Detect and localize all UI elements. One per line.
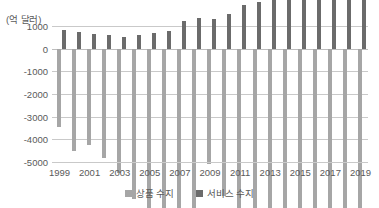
bar-goods-2017[interactable] (328, 49, 332, 208)
x-axis-tick-label: 1999 (49, 167, 70, 178)
bar-goods-2003[interactable] (117, 49, 121, 173)
x-axis-tick-label: 2009 (199, 167, 220, 178)
bar-group (263, 26, 278, 162)
bar-group (157, 26, 172, 162)
bar-group (278, 26, 293, 162)
bar-group (323, 26, 338, 162)
bar-group (248, 26, 263, 162)
x-axis-tick-label: 2003 (109, 167, 130, 178)
bar-group (338, 26, 353, 162)
bar-group (293, 26, 308, 162)
y-axis-tick-label: 0 (4, 43, 48, 54)
legend-label-services: 서비스 수지 (207, 186, 253, 200)
x-axis-tick-label: 2011 (230, 167, 250, 178)
bar-services-2019[interactable] (362, 0, 366, 49)
bar-goods-2016[interactable] (313, 49, 317, 208)
bar-services-2006[interactable] (167, 31, 171, 49)
bar-group (233, 26, 248, 162)
bar-group (202, 26, 217, 162)
bar-group (308, 26, 323, 162)
y-axis-tick-label: 1000 (4, 21, 48, 32)
bars-layer (52, 26, 368, 162)
trade-balance-bar-chart: (억 달러) 10000-1000-2000-3000-4000-5000 19… (0, 0, 379, 208)
bar-goods-2014[interactable] (283, 49, 287, 208)
bar-services-2004[interactable] (137, 35, 141, 49)
bar-goods-2018[interactable] (343, 49, 347, 208)
bar-services-2011[interactable] (242, 5, 246, 48)
legend-label-goods: 상품 수지 (136, 186, 174, 200)
bar-goods-2010[interactable] (222, 49, 226, 196)
bar-goods-2008[interactable] (192, 49, 196, 208)
bar-services-2017[interactable] (332, 0, 336, 49)
x-axis-tick-label: 2001 (79, 167, 100, 178)
x-axis-line (52, 162, 368, 163)
bar-services-2000[interactable] (77, 32, 81, 49)
bar-services-2014[interactable] (287, 0, 291, 49)
bar-goods-1999[interactable] (57, 49, 61, 127)
bar-services-2012[interactable] (257, 2, 261, 48)
bar-goods-2005[interactable] (147, 49, 151, 208)
bar-services-2005[interactable] (152, 33, 156, 49)
x-axis-tick-label: 2013 (260, 167, 281, 178)
bar-group (82, 26, 97, 162)
bar-services-2010[interactable] (227, 14, 231, 49)
bar-goods-2011[interactable] (237, 49, 241, 208)
bar-services-2003[interactable] (122, 37, 126, 49)
x-axis-tick-label: 2005 (139, 167, 160, 178)
bar-services-2009[interactable] (212, 19, 216, 49)
y-axis-tick-label: -4000 (4, 134, 48, 145)
legend-item-services[interactable]: 서비스 수지 (196, 186, 253, 200)
y-axis-tick-label: -2000 (4, 89, 48, 100)
bar-goods-2013[interactable] (268, 49, 272, 208)
bar-group (67, 26, 82, 162)
bar-goods-2019[interactable] (358, 49, 362, 208)
legend-swatch-goods (125, 190, 132, 197)
bar-services-2007[interactable] (182, 21, 186, 48)
y-axis-tick-label: -5000 (4, 157, 48, 168)
bar-services-2015[interactable] (302, 0, 306, 49)
bar-group (218, 26, 233, 162)
legend-swatch-services (196, 190, 203, 197)
bar-services-2008[interactable] (197, 18, 201, 49)
bar-goods-2009[interactable] (207, 49, 211, 164)
bar-goods-2007[interactable] (177, 49, 181, 208)
bar-group (127, 26, 142, 162)
bar-services-2018[interactable] (347, 0, 351, 49)
bar-group (172, 26, 187, 162)
x-axis-tick-label: 2019 (350, 167, 371, 178)
x-axis-tick-label: 2007 (169, 167, 190, 178)
legend-item-goods[interactable]: 상품 수지 (125, 186, 174, 200)
y-axis-tick-label: -3000 (4, 111, 48, 122)
bar-goods-2004[interactable] (132, 49, 136, 200)
plot-area (52, 26, 368, 162)
bar-goods-2006[interactable] (162, 49, 166, 208)
x-axis-tick-label: 2015 (290, 167, 311, 178)
bar-goods-2012[interactable] (253, 49, 257, 208)
chart-legend: 상품 수지 서비스 수지 (0, 186, 379, 200)
bar-group (142, 26, 157, 162)
y-axis-tick-label: -1000 (4, 66, 48, 77)
bar-group (187, 26, 202, 162)
bar-services-2001[interactable] (92, 34, 96, 49)
bar-group (353, 26, 368, 162)
bar-goods-2000[interactable] (72, 49, 76, 151)
x-axis-tick-label: 2017 (320, 167, 341, 178)
bar-group (97, 26, 112, 162)
bar-services-2013[interactable] (272, 0, 276, 49)
bar-goods-2015[interactable] (298, 49, 302, 208)
bar-services-2002[interactable] (107, 35, 111, 49)
bar-services-1999[interactable] (62, 30, 66, 49)
bar-group (112, 26, 127, 162)
bar-goods-2001[interactable] (87, 49, 91, 146)
bar-group (52, 26, 67, 162)
bar-goods-2002[interactable] (102, 49, 106, 158)
bar-services-2016[interactable] (317, 0, 321, 49)
